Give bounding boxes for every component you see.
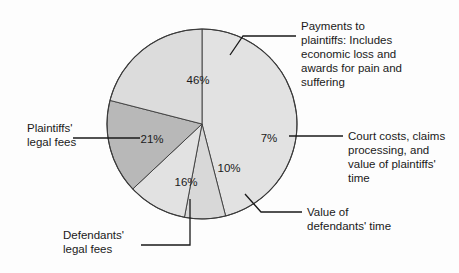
callout-payments-line-5: suffering bbox=[301, 76, 345, 88]
pie-chart-slices bbox=[107, 29, 297, 219]
pie-chart-figure: 46% 7% 10% 16% 21% Payments to plaintiff… bbox=[0, 0, 459, 273]
callout-defendants-legal-fees-line-1: Defendants' bbox=[63, 229, 124, 241]
callout-defendants-time-line-1: Value of bbox=[307, 206, 349, 218]
callout-payments-line-2: plaintiffs: Includes bbox=[301, 34, 392, 46]
slice-value-label-10: 10% bbox=[217, 162, 240, 174]
callout-defendants-time-line-2: defendants' time bbox=[307, 220, 391, 232]
slice-value-label-16: 16% bbox=[174, 176, 197, 188]
callout-court-costs-line-4: time bbox=[348, 172, 370, 184]
callout-defendants-legal-fees-line-2: legal fees bbox=[63, 243, 112, 255]
pie-chart-canvas: 46% 7% 10% 16% 21% Payments to plaintiff… bbox=[0, 0, 459, 273]
callout-court-costs-line-3: value of plaintiffs' bbox=[348, 158, 436, 170]
slice-value-label-7: 7% bbox=[261, 132, 278, 144]
callout-payments-line-1: Payments to bbox=[301, 20, 365, 32]
callout-court-costs-line-2: processing, and bbox=[348, 144, 429, 156]
slice-value-label-46: 46% bbox=[186, 74, 209, 86]
callout-plaintiffs-legal-fees-line-2: legal fees bbox=[27, 136, 76, 148]
slice-value-label-21: 21% bbox=[140, 133, 163, 145]
callout-plaintiffs-legal-fees-line-1: Plaintiffs' bbox=[27, 122, 72, 134]
callout-payments-line-3: economic loss and bbox=[301, 48, 396, 60]
callout-payments-line-4: awards for pain and bbox=[301, 62, 402, 74]
callout-court-costs-line-1: Court costs, claims bbox=[348, 130, 445, 142]
